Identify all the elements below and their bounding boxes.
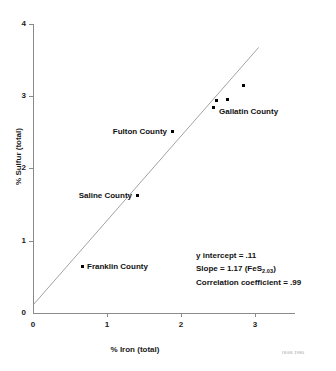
regression-line: [0, 0, 336, 371]
x-axis-tick-label-3: 3: [247, 321, 263, 329]
y-intercept-annotation: y intercept = .11: [196, 249, 301, 262]
y-axis-tick-label-0: 0: [10, 309, 26, 317]
slope-annotation: Slope = 1.17 (FeS2.03): [196, 262, 301, 276]
source-credit: ISGS 1980: [282, 350, 304, 355]
data-point-unlabeled-3: [242, 84, 245, 87]
x-axis-tick-label-0: 0: [25, 321, 41, 329]
y-axis-line: [33, 24, 34, 314]
y-axis-tick-1: [29, 241, 33, 242]
x-axis-tick-2: [181, 313, 182, 317]
y-axis-tick-label-4: 4: [10, 20, 26, 28]
data-point-gallatin-county: [212, 106, 215, 109]
slope-annotation-subscript: 2.03: [262, 268, 273, 274]
data-point-unlabeled-1: [215, 99, 218, 102]
data-point-franklin-county: [81, 265, 84, 268]
slope-annotation-prefix: Slope = 1.17 (FeS: [196, 264, 262, 273]
scatter-plot-figure: 4 3 2 1 0 0 1 2 3 % Iron (total) % Sulfu…: [0, 0, 336, 371]
data-point-saline-county: [136, 194, 139, 197]
x-axis-title: % Iron (total): [0, 345, 270, 354]
x-axis-tick-3: [255, 313, 256, 317]
x-axis-tick-label-2: 2: [173, 321, 189, 329]
data-label-fulton-county: Fulton County: [66, 128, 167, 136]
data-point-unlabeled-2: [226, 98, 229, 101]
y-axis-title: % Sulfur (total): [14, 87, 23, 227]
y-axis-tick-4: [29, 24, 33, 25]
data-label-franklin-county: Franklin County: [87, 263, 148, 271]
data-point-fulton-county: [171, 130, 174, 133]
x-axis-tick-1: [107, 313, 108, 317]
statistics-annotation-block: y intercept = .11 Slope = 1.17 (FeS2.03)…: [196, 249, 301, 289]
slope-annotation-suffix: ): [273, 264, 276, 273]
y-axis-tick-3: [29, 96, 33, 97]
y-axis-tick-2: [29, 168, 33, 169]
correlation-annotation: Correlation coefficient = .99: [196, 276, 301, 289]
y-axis-tick-label-1: 1: [10, 237, 26, 245]
data-label-gallatin-county: Gallatin County: [219, 108, 278, 116]
x-axis-tick-label-1: 1: [99, 321, 115, 329]
data-label-saline-county: Saline County: [36, 192, 132, 200]
